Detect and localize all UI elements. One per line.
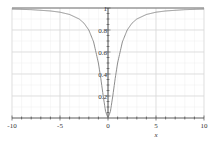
x-tick-label: 5 <box>154 122 158 130</box>
x-tick-label: 0 <box>106 122 110 130</box>
x-tick-label: 10 <box>201 122 209 130</box>
line-chart: -10-50510 0.20.40.60.81 x <box>0 0 219 144</box>
x-tick-label: -10 <box>7 122 17 130</box>
y-tick-label: 0.6 <box>98 49 107 57</box>
x-axis-title: x <box>153 131 158 139</box>
x-tick-label: -5 <box>57 122 63 130</box>
y-tick-label: 1 <box>104 5 108 13</box>
x-tick-labels: -10-50510 <box>7 122 208 130</box>
y-tick-label: 0.8 <box>98 27 107 35</box>
